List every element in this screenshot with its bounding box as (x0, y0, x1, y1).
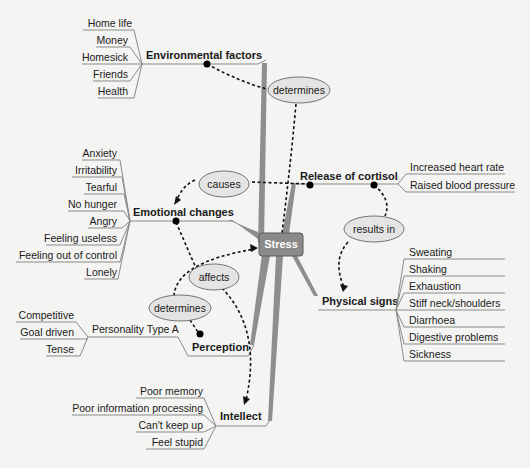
physical-item[interactable]: Diarrhoea (409, 314, 455, 326)
intellect-label[interactable]: Intellect (220, 410, 262, 422)
physical-item[interactable]: Shaking (409, 263, 447, 275)
connector-env-determines (207, 64, 267, 89)
environmental-item[interactable]: Homesick (82, 51, 129, 63)
stress-mind-map: Environmental factors Home life Money Ho… (0, 0, 530, 468)
physical-item[interactable]: Sweating (409, 246, 452, 258)
spike-intellect (268, 256, 283, 421)
branch-intellect: Intellect Poor memory Poor information p… (72, 385, 270, 449)
environmental-item[interactable]: Friends (93, 68, 128, 80)
spike-physical (290, 252, 318, 296)
relation-causes: causes (207, 178, 240, 190)
intellect-item[interactable]: Poor information processing (72, 402, 203, 414)
relation-results-in: results in (353, 223, 395, 235)
cortisol-item[interactable]: Increased heart rate (410, 161, 504, 173)
dot-environmental (204, 61, 211, 68)
connector-results-physical (339, 242, 348, 287)
connector-determines-perception (190, 320, 198, 332)
dot-cortisol-right (371, 182, 378, 189)
emotional-item[interactable]: No hunger (68, 198, 118, 210)
spike-emotional (228, 220, 262, 242)
intellect-item[interactable]: Can't keep up (139, 419, 204, 431)
physical-item[interactable]: Exhaustion (409, 280, 461, 292)
intellect-item[interactable]: Feel stupid (152, 436, 204, 448)
dot-cortisol-left (307, 182, 314, 189)
environmental-item[interactable]: Health (98, 85, 129, 97)
physical-item[interactable]: Sickness (409, 348, 451, 360)
perception-label[interactable]: Perception (192, 341, 249, 353)
physical-item[interactable]: Digestive problems (409, 331, 498, 343)
branch-environmental: Environmental factors Home life Money Ho… (82, 17, 266, 98)
emotional-item[interactable]: Feeling useless (44, 232, 117, 244)
environmental-items: Home life Money Homesick Friends Health (82, 17, 142, 98)
intellect-item[interactable]: Poor memory (140, 385, 204, 397)
arrowhead-icon (250, 244, 258, 252)
release-of-cortisol-label[interactable]: Release of cortisol (300, 170, 398, 182)
emotional-items: Anxiety Irritability Tearful No hunger A… (16, 147, 130, 279)
environmental-factors-label[interactable]: Environmental factors (146, 49, 262, 61)
connector-causes-emotional (177, 180, 195, 200)
emotional-item[interactable]: Lonely (86, 266, 118, 278)
spike-cortisol (282, 183, 296, 234)
perception-item[interactable]: Goal driven (20, 326, 74, 338)
branch-physical: Physical signs Sweating Shaking Exhausti… (318, 246, 505, 361)
center-node[interactable]: Stress (259, 233, 303, 256)
emotional-item[interactable]: Anxiety (83, 147, 118, 159)
arrowhead-icon (174, 196, 181, 205)
physical-item[interactable]: Stiff neck/shoulders (409, 297, 500, 309)
spike-perception (250, 254, 270, 345)
physical-items: Sweating Shaking Exhaustion Stiff neck/s… (396, 246, 505, 361)
spike-environmental (258, 63, 267, 243)
emotional-item[interactable]: Tearful (85, 181, 117, 193)
stress-label: Stress (264, 238, 298, 250)
emotional-item[interactable]: Angry (90, 215, 118, 227)
branch-cortisol: Release of cortisol Increased heart rate… (296, 161, 515, 192)
dot-emotional (173, 218, 180, 225)
connector-cortisol-results (374, 185, 387, 216)
branch-emotional: Emotional changes Anxiety Irritability T… (16, 147, 258, 279)
perception-item[interactable]: Tense (46, 343, 74, 355)
connector-emotional-affects (176, 222, 196, 268)
relation-determines-bottom: determines (154, 302, 206, 314)
dot-perception (197, 331, 204, 338)
relation-affects: affects (199, 271, 230, 283)
cortisol-item[interactable]: Raised blood pressure (410, 179, 515, 191)
physical-signs-label[interactable]: Physical signs (322, 295, 398, 307)
environmental-item[interactable]: Home life (88, 17, 133, 29)
emotional-item[interactable]: Feeling out of control (19, 249, 117, 261)
perception-item[interactable]: Competitive (19, 309, 75, 321)
emotional-changes-label[interactable]: Emotional changes (133, 206, 234, 218)
relation-determines-top: determines (273, 84, 325, 96)
branch-perception: Perception Personality Type A Competitiv… (16, 309, 254, 356)
environmental-item[interactable]: Money (96, 34, 128, 46)
arrowhead-icon (340, 284, 348, 292)
emotional-item[interactable]: Irritability (75, 164, 118, 176)
personality-type-a-label[interactable]: Personality Type A (92, 323, 179, 335)
